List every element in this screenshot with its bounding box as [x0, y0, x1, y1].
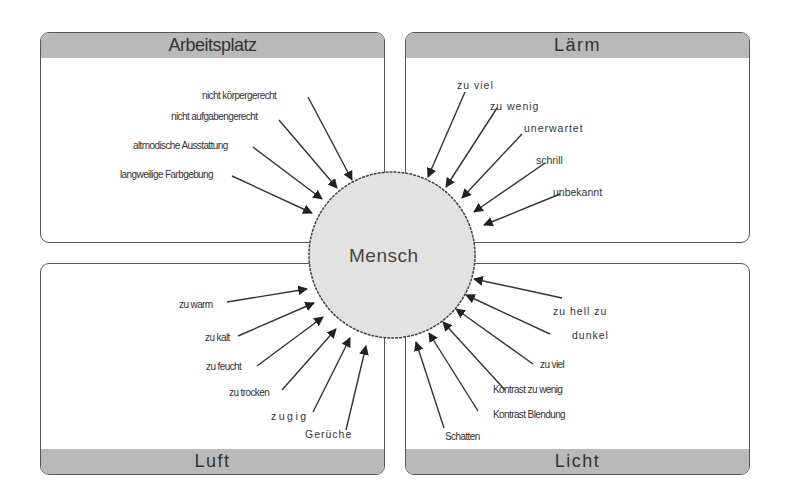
- factor-label: schrill: [536, 155, 563, 166]
- factor-label: Kontrast zu wenig: [493, 385, 562, 395]
- influence-arrow: [456, 309, 533, 364]
- influence-arrow: [428, 92, 465, 177]
- factor-label: Schatten: [445, 432, 480, 442]
- factor-label: zu trocken: [229, 388, 269, 398]
- influence-arrow: [257, 317, 323, 366]
- influence-arrow: [443, 322, 505, 390]
- factor-label: dunkel: [572, 330, 609, 341]
- factor-label: Kontrast Blendung: [493, 410, 565, 420]
- influence-arrow: [466, 295, 550, 334]
- influence-arrow: [308, 97, 352, 180]
- factor-label: zu wenig: [490, 101, 539, 112]
- factor-label: zu warm: [179, 300, 213, 310]
- factor-label: zu feucht: [206, 362, 241, 372]
- influence-arrow: [346, 346, 366, 430]
- influence-arrow: [279, 120, 337, 188]
- influence-arrow: [227, 289, 307, 302]
- influence-arrow: [484, 194, 560, 225]
- factor-label: altmodische Ausstattung: [133, 141, 228, 151]
- factor-label: zu kalt: [205, 333, 230, 343]
- influence-arrow: [238, 303, 314, 336]
- influence-arrow: [416, 342, 444, 428]
- influence-arrow: [446, 108, 497, 187]
- influence-arrow: [429, 333, 478, 411]
- factor-label: zu viel: [540, 360, 564, 370]
- factor-label: zugig: [271, 411, 309, 422]
- factor-label: unbekannt: [553, 187, 602, 198]
- center-label-mensch: Mensch: [349, 246, 419, 265]
- influence-arrow: [474, 279, 562, 298]
- factor-label: langweilige Farbgebung: [120, 170, 213, 180]
- factor-label: nicht aufgabengerecht: [171, 112, 257, 122]
- influence-arrow: [462, 134, 522, 198]
- factor-label: nicht körpergerecht: [202, 91, 276, 101]
- factor-label: Gerüche: [305, 429, 352, 440]
- factor-label: zu hell zu: [553, 306, 607, 317]
- factor-label: zu viel: [457, 80, 494, 91]
- factor-label: unerwartet: [524, 123, 584, 134]
